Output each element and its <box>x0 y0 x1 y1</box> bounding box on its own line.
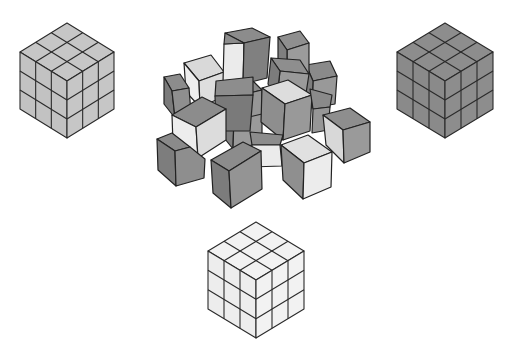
pile-cube <box>281 135 332 199</box>
cube-3x3-white <box>208 222 304 338</box>
pile-of-loose-cubes <box>157 28 370 208</box>
cube-3x3-dark-gray <box>397 23 493 138</box>
cubes-illustration <box>0 0 511 351</box>
pile-cube <box>211 142 262 208</box>
pile-cube <box>223 28 270 84</box>
cube-3x3-light-gray <box>20 23 114 138</box>
